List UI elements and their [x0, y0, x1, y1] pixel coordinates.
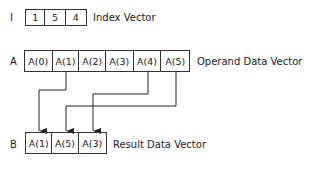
result-vector-label: B: [10, 139, 17, 151]
result-data-vector: A(1) A(5) A(3): [25, 132, 107, 154]
result-cell: A(3): [79, 133, 106, 153]
result-cell: A(5): [52, 133, 78, 153]
result-cell: A(1): [26, 133, 52, 153]
result-vector-caption: Result Data Vector: [113, 139, 206, 151]
